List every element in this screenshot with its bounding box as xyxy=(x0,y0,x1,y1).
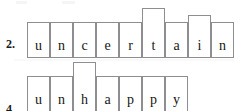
row-number-label: 2. xyxy=(6,38,15,50)
letter-box[interactable]: a xyxy=(96,76,119,111)
letter-box[interactable]: n xyxy=(211,22,234,58)
scan-artifact xyxy=(14,59,234,61)
worksheet-canvas: 2. u n c e r t a i xyxy=(0,0,247,111)
letter-box[interactable]: p xyxy=(119,76,142,111)
letter-glyph: a xyxy=(173,39,179,57)
letter-box[interactable]: r xyxy=(119,22,142,58)
letter-box[interactable]: u xyxy=(27,76,50,111)
letter-box-tall[interactable]: t xyxy=(142,8,165,58)
letter-glyph: c xyxy=(81,39,87,57)
letter-box[interactable]: n xyxy=(50,22,73,58)
letter-box[interactable]: u xyxy=(27,22,50,58)
letter-glyph: u xyxy=(35,39,42,57)
letter-box-mid[interactable]: i xyxy=(188,15,211,58)
letter-glyph: p xyxy=(150,93,157,111)
scan-artifact xyxy=(16,1,27,4)
letter-glyph: t xyxy=(152,39,156,57)
letter-glyph: e xyxy=(104,39,110,57)
letter-glyph: p xyxy=(127,93,134,111)
letter-glyph: n xyxy=(219,39,226,57)
row-number-label: 4. xyxy=(6,103,15,111)
letter-box-tall[interactable]: h xyxy=(73,62,96,111)
letter-box[interactable]: c xyxy=(73,22,96,58)
letter-glyph: n xyxy=(58,39,65,57)
letter-box[interactable]: e xyxy=(96,22,119,58)
scan-artifact xyxy=(62,1,75,4)
letter-glyph: h xyxy=(81,93,88,111)
letter-box[interactable]: a xyxy=(165,22,188,58)
letter-glyph: a xyxy=(104,93,110,111)
letter-box[interactable]: p xyxy=(142,76,165,111)
letter-glyph: n xyxy=(58,93,65,111)
letter-glyph: u xyxy=(35,93,42,111)
letter-glyph: i xyxy=(198,39,202,57)
letter-box[interactable]: y xyxy=(165,76,188,111)
letter-glyph: r xyxy=(128,39,133,57)
letter-glyph: y xyxy=(173,93,180,111)
letter-box[interactable]: n xyxy=(50,76,73,111)
